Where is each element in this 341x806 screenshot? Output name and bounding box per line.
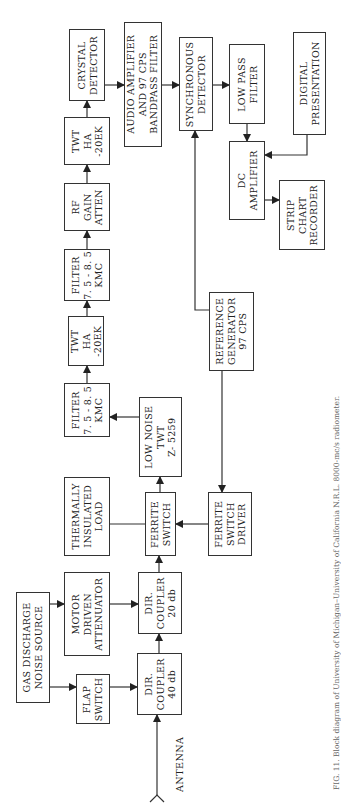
block-audio-amplifier: AUDIO AMPLIFIERAND 97 CPSBANDPASS FILTER bbox=[124, 22, 162, 147]
antenna-label: ANTENNA bbox=[174, 737, 185, 792]
block-low-noise-twt: LOW NOISETWTZ- 5259 bbox=[139, 397, 182, 477]
block-thermally-insulated-load: THERMALLYINSULATEDLOAD bbox=[64, 477, 110, 556]
block-dir-coupler-20db: DIR.COUPLER20 db bbox=[138, 572, 182, 634]
block-twt-upper: TWTHA-20EK bbox=[64, 117, 110, 165]
block-digital-presentation: DIGITALPRESENTATION bbox=[293, 32, 326, 135]
block-synchronous-detector: SYNCHRONOUSDETECTOR bbox=[179, 37, 213, 131]
block-motor-driven-attenuator: MOTORDRIVENATTENUATOR bbox=[64, 572, 110, 656]
block-filter-upper: FILTER7. 5 - 8. 5KMC bbox=[64, 249, 110, 301]
block-flap-switch: FLAPSWITCH bbox=[76, 674, 110, 724]
block-ferrite-switch-driver: FERRITESWITCHDRIVER bbox=[208, 492, 252, 556]
block-strip-chart-recorder: STRIPCHARTRECORDER bbox=[279, 180, 325, 250]
block-twt-lower: TWTHA-20EK bbox=[68, 316, 104, 366]
block-dc-amplifier: DCAMPLIFIER bbox=[229, 141, 265, 220]
block-dir-coupler-40db: DIR.COUPLER40 db bbox=[137, 653, 182, 715]
block-crystal-detector: CRYSTALDETECTOR bbox=[69, 29, 105, 101]
figure-caption: FIG. 11. Block diagram of University of … bbox=[332, 396, 341, 790]
block-gas-discharge-noise-source: GAS DISCHARGENOISE SOURCE bbox=[16, 592, 50, 703]
block-low-pass-filter: LOW PASSFILTER bbox=[229, 44, 265, 124]
block-filter-lower: FILTER7. 5 - 8. 5KMC bbox=[64, 383, 110, 437]
block-rf-gain-atten: RFGAINATTEN bbox=[64, 183, 110, 231]
block-ferrite-switch: FERRITESWITCH bbox=[145, 492, 176, 556]
block-reference-generator: REFERENCEGENERATOR97 CPS bbox=[209, 292, 254, 371]
